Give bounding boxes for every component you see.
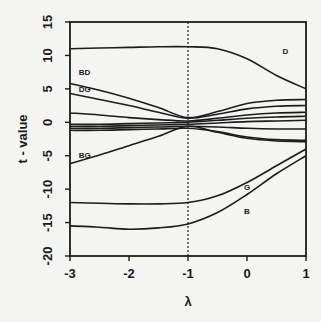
curve-label-dg: DG bbox=[79, 85, 91, 94]
x-tick-label: -2 bbox=[123, 266, 135, 281]
y-tick-label: 5 bbox=[40, 85, 55, 92]
y-tick-label: 15 bbox=[40, 15, 55, 29]
y-axis-label: t - value bbox=[15, 114, 30, 163]
curve-label-bg: BG bbox=[79, 151, 91, 160]
x-tick-label: -1 bbox=[182, 266, 194, 281]
y-tick-label: 0 bbox=[40, 119, 55, 126]
y-tick-label: -10 bbox=[40, 180, 55, 199]
curve-label-bd: BD bbox=[79, 68, 91, 77]
curve-label-b: B bbox=[244, 207, 250, 216]
y-axis-ticks: -20-15-10-5051015 bbox=[40, 15, 70, 266]
x-tick-label: 1 bbox=[302, 266, 309, 281]
x-axis-label: λ bbox=[184, 294, 192, 309]
y-tick-label: -15 bbox=[40, 213, 55, 232]
curve-label-d: D bbox=[282, 47, 288, 56]
curve-label-g: G bbox=[244, 183, 250, 192]
y-tick-label: 10 bbox=[40, 48, 55, 62]
curves bbox=[70, 47, 306, 230]
x-tick-label: 0 bbox=[243, 266, 250, 281]
y-tick-label: -5 bbox=[40, 150, 55, 162]
x-tick-label: -3 bbox=[64, 266, 76, 281]
x-axis-ticks: -3-2-101 bbox=[64, 256, 309, 281]
chart: -20-15-10-5051015 -3-2-101 DBDDGBGGB λ t… bbox=[0, 0, 321, 322]
curve-labels: DBDDGBGGB bbox=[79, 47, 289, 216]
y-tick-label: -20 bbox=[40, 247, 55, 266]
